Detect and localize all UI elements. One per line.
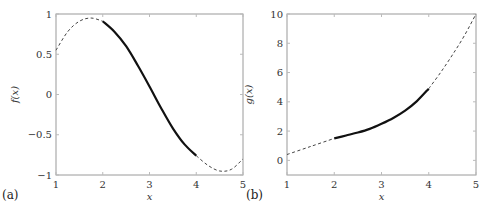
x-tick-label: 3: [378, 179, 384, 190]
y-tick-label: 8: [277, 38, 283, 49]
y-tick-label: 10: [270, 9, 283, 20]
x-axis-label: x: [147, 191, 153, 202]
dashed-curve: [56, 18, 103, 50]
dashed-curve: [429, 14, 476, 89]
x-tick-label: 1: [53, 179, 59, 190]
y-tick-label: 0.5: [36, 49, 52, 60]
y-tick-label: 2: [277, 126, 283, 137]
solid-curve: [334, 89, 429, 139]
plot-frame: [56, 14, 243, 175]
x-tick-label: 3: [146, 179, 152, 190]
y-axis-label: g(x): [243, 84, 254, 104]
x-tick-label: 4: [426, 179, 432, 190]
y-tick-label: −0.5: [28, 129, 52, 140]
y-tick-label: 1: [46, 9, 52, 20]
y-tick-label: 0: [277, 155, 283, 166]
figure: 12345−1−0.500.51xf(x)(a)123450246810xg(x…: [0, 0, 489, 214]
y-axis-label: f(x): [9, 86, 20, 104]
x-tick-label: 5: [473, 179, 479, 190]
dashed-curve: [287, 138, 334, 154]
y-tick-label: −1: [37, 170, 52, 181]
y-tick-label: 0: [46, 89, 52, 100]
panel-label: (a): [2, 188, 19, 202]
solid-curve: [103, 21, 197, 155]
plot-frame: [287, 14, 476, 175]
x-axis-label: x: [379, 191, 385, 202]
dashed-curve: [196, 156, 243, 172]
y-tick-label: 4: [277, 96, 283, 107]
panel-label: (b): [246, 188, 263, 202]
y-tick-label: 6: [277, 67, 283, 78]
x-tick-label: 4: [193, 179, 199, 190]
x-tick-label: 2: [100, 179, 106, 190]
x-tick-label: 2: [331, 179, 337, 190]
x-tick-label: 1: [284, 179, 290, 190]
